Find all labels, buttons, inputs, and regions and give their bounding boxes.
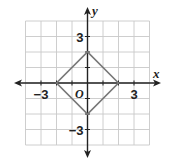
axes [14,7,161,158]
x-tick-label: 3 [130,87,137,102]
y-tick-label: −3 [69,123,84,138]
x-axis-label: x [152,66,160,81]
coordinate-plane: −333−3 x y O [0,0,169,165]
y-tick-label: 3 [76,30,83,45]
x-tick-label: −3 [34,87,49,102]
origin-label: O [75,87,84,101]
y-axis-label: y [90,3,98,18]
